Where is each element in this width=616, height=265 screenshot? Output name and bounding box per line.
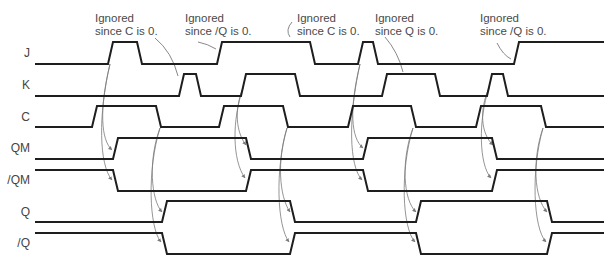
waveforms	[35, 42, 604, 254]
causal-arrows	[102, 64, 547, 242]
waveform-c	[35, 106, 604, 127]
annotation-pointer-arrow	[155, 38, 178, 76]
annotation-ignored-c-2: Ignored since C is 0.	[297, 12, 360, 38]
annotation-ignored-c-1: Ignored since C is 0.	[95, 12, 158, 38]
signal-label-j: J	[0, 46, 30, 60]
causal-arrow	[405, 128, 416, 212]
waveform-nq	[35, 233, 604, 254]
causal-arrow	[152, 128, 162, 212]
annotation-ignored-nq-2: Ignored since /Q is 0.	[480, 12, 546, 38]
annotation-line2: since /Q is 0.	[480, 25, 546, 38]
annotation-line2: since /Q is 0.	[185, 25, 251, 38]
waveform-k	[35, 74, 604, 96]
annotation-pointer-arrow	[385, 37, 403, 72]
waveform-canvas	[0, 0, 616, 265]
signal-label-qm: QM	[0, 141, 30, 155]
causal-arrow	[481, 88, 491, 178]
annotation-line2: since C is 0.	[297, 25, 360, 38]
waveform-j	[35, 42, 604, 64]
annotation-line1: Ignored	[297, 12, 360, 25]
causal-arrow	[279, 128, 289, 242]
annotation-pointer-arrow	[497, 43, 511, 59]
signal-label-nq: /Q	[0, 236, 30, 250]
signal-label-c: C	[0, 110, 30, 124]
signal-label-nqm: /QM	[0, 173, 30, 187]
annotation-line1: Ignored	[375, 12, 438, 25]
signal-label-q: Q	[0, 205, 30, 219]
annotation-ignored-q: Ignored since Q is 0.	[375, 12, 438, 38]
annotation-line1: Ignored	[480, 12, 546, 25]
waveform-nqm	[35, 170, 604, 191]
annotation-line2: since C is 0.	[95, 25, 158, 38]
signal-label-k: K	[0, 78, 30, 92]
annotation-line2: since Q is 0.	[375, 25, 438, 38]
annotation-ignored-nq-1: Ignored since /Q is 0.	[185, 12, 251, 38]
annotation-line1: Ignored	[95, 12, 158, 25]
annotation-line1: Ignored	[185, 12, 251, 25]
annotation-pointer-arrow	[288, 22, 292, 37]
waveform-qm	[35, 138, 604, 159]
annotation-pointer-arrow	[198, 42, 216, 49]
timing-diagram: J K C QM /QM Q /Q Ignored since C is 0. …	[0, 0, 616, 265]
waveform-q	[35, 201, 604, 222]
